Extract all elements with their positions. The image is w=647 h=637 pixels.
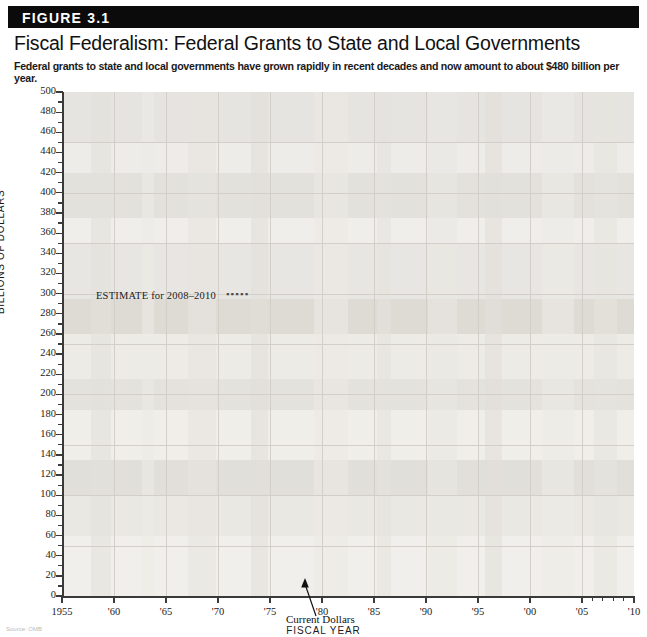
y-axis-minor-tick [58,142,63,143]
y-axis-tick-label: 120 [26,468,56,479]
y-axis-tick-label: 60 [26,529,56,540]
y-axis-tick-label: 360 [26,226,56,237]
current-dollars-label: Current Dollars [286,613,355,625]
gridline-horizontal [62,546,634,547]
gridline-vertical [322,92,323,596]
x-axis-tick [373,596,374,603]
y-axis-minor-tick [58,565,63,566]
gridline-vertical [582,92,583,596]
y-axis-tick-label: 340 [26,246,56,257]
y-axis-minor-tick [58,505,63,506]
x-axis-minor-tick [592,596,593,601]
gridline-vertical [166,92,167,596]
y-axis-tick-label: 400 [26,186,56,197]
y-axis-tick-label: 260 [26,327,56,338]
gridline-vertical [270,92,271,596]
x-axis-tick-label: '95 [472,606,484,617]
chart-container: 0204060801001201401601802002202402602803… [0,84,647,637]
x-axis-tick-label: '75 [264,606,276,617]
estimate-line-swatch: ▪▪▪▪▪ [226,289,249,299]
y-axis-tick [56,394,63,395]
y-axis-minor-tick [58,545,63,546]
y-axis-tick [56,495,63,496]
figure-root: FIGURE 3.1 Fiscal Federalism: Federal Gr… [0,0,647,637]
x-axis-tick [581,596,582,603]
figure-badge-bar: FIGURE 3.1 [8,6,639,28]
gridline-horizontal [62,445,634,446]
y-axis-tick-label: 280 [26,307,56,318]
y-axis-tick-label: 380 [26,206,56,217]
gridline-horizontal [62,344,634,345]
y-axis-tick-label: 140 [26,448,56,459]
y-axis-tick [56,555,63,556]
y-axis-tick-label: 240 [26,347,56,358]
figure-badge-label: FIGURE 3.1 [22,10,110,26]
x-axis-tick [217,596,218,603]
y-axis-tick [56,152,63,153]
y-axis-tick [56,313,63,314]
y-axis-minor-tick [58,525,63,526]
x-axis-tick-label: 1955 [52,606,73,617]
estimate-annotation: ESTIMATE for 2008–2010▪▪▪▪▪ [96,289,249,301]
y-axis-tick [56,353,63,354]
y-axis-tick [56,132,63,133]
y-axis-tick-label: 0 [26,589,56,600]
gridline-vertical [374,92,375,596]
x-axis-tick-label: '85 [368,606,380,617]
estimate-annotation-label: ESTIMATE for 2008–2010 [96,290,216,301]
y-axis-minor-tick [58,263,63,264]
gridline-horizontal [62,394,634,395]
y-axis-tick [56,172,63,173]
y-axis-tick [56,91,63,92]
gridline-horizontal [62,243,634,244]
figure-subtitle: Federal grants to state and local govern… [14,60,639,84]
y-axis-tick-label: 180 [26,408,56,419]
figure-title: Fiscal Federalism: Federal Grants to Sta… [14,32,634,55]
y-axis-tick [56,474,63,475]
x-axis-tick [165,596,166,603]
x-axis-title: FISCAL YEAR [0,625,647,636]
x-axis-minor-tick [613,596,614,601]
x-axis-line [62,596,634,598]
y-axis-minor-tick [58,162,63,163]
y-axis-tick [56,575,63,576]
y-axis-tick-label: 440 [26,145,56,156]
y-axis-tick [56,374,63,375]
gridline-horizontal [62,142,634,143]
y-axis-tick-label: 100 [26,488,56,499]
y-axis-minor-tick [58,364,63,365]
x-axis-tick-label: '65 [160,606,172,617]
gridline-vertical [426,92,427,596]
y-axis-tick [56,414,63,415]
y-axis-minor-tick [58,101,63,102]
x-axis-minor-tick [602,596,603,601]
y-axis-tick-label: 300 [26,287,56,298]
current-dollars-arrow-icon [295,576,335,618]
y-axis-tick [56,192,63,193]
y-axis-tick-label: 40 [26,549,56,560]
y-axis-tick [56,233,63,234]
x-axis-tick [633,596,634,603]
x-axis-tick [269,596,270,603]
y-axis-minor-tick [58,464,63,465]
y-axis-minor-tick [58,283,63,284]
y-axis-tick [56,333,63,334]
x-axis-tick [477,596,478,603]
y-axis-minor-tick [58,585,63,586]
x-axis-minor-tick [623,596,624,601]
gridline-vertical [218,92,219,596]
y-axis-tick-label: 320 [26,266,56,277]
y-axis-tick [56,293,63,294]
y-axis-tick [56,434,63,435]
y-axis-tick-label: 460 [26,125,56,136]
x-axis-tick-label: '10 [628,606,640,617]
y-axis-minor-tick [58,122,63,123]
y-axis-minor-tick [58,182,63,183]
gridline-vertical [530,92,531,596]
y-axis-tick [56,273,63,274]
gridline-vertical [114,92,115,596]
y-axis-minor-tick [58,323,63,324]
x-axis-tick-label: '70 [212,606,224,617]
y-axis-minor-tick [58,202,63,203]
gridline-horizontal [62,495,634,496]
